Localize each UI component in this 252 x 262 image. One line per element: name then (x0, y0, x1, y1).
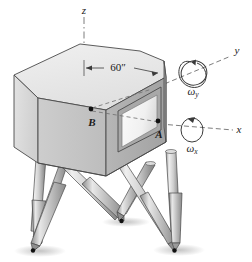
body-front-face (38, 98, 106, 176)
y-axis-label: y (234, 44, 240, 56)
body-right-chamfer (164, 61, 166, 142)
point-A-label: A (154, 128, 162, 140)
x-axis-line (160, 124, 233, 130)
point-A-dot (156, 119, 161, 124)
point-B-label: B (87, 116, 95, 128)
x-axis-label: x (236, 123, 242, 135)
figure-canvas: 60″ ωy ωx B A z y x (0, 0, 252, 262)
omega-x-arrow (181, 117, 203, 142)
omega-x-label: ωx (186, 142, 198, 156)
omega-y-label: ωy (187, 85, 199, 99)
point-B-dot (89, 107, 94, 112)
z-axis-label: z (81, 4, 87, 16)
width-dimension-label: 60″ (110, 61, 126, 73)
hexapod-diagram: 60″ ωy ωx B A z y x (0, 0, 252, 262)
